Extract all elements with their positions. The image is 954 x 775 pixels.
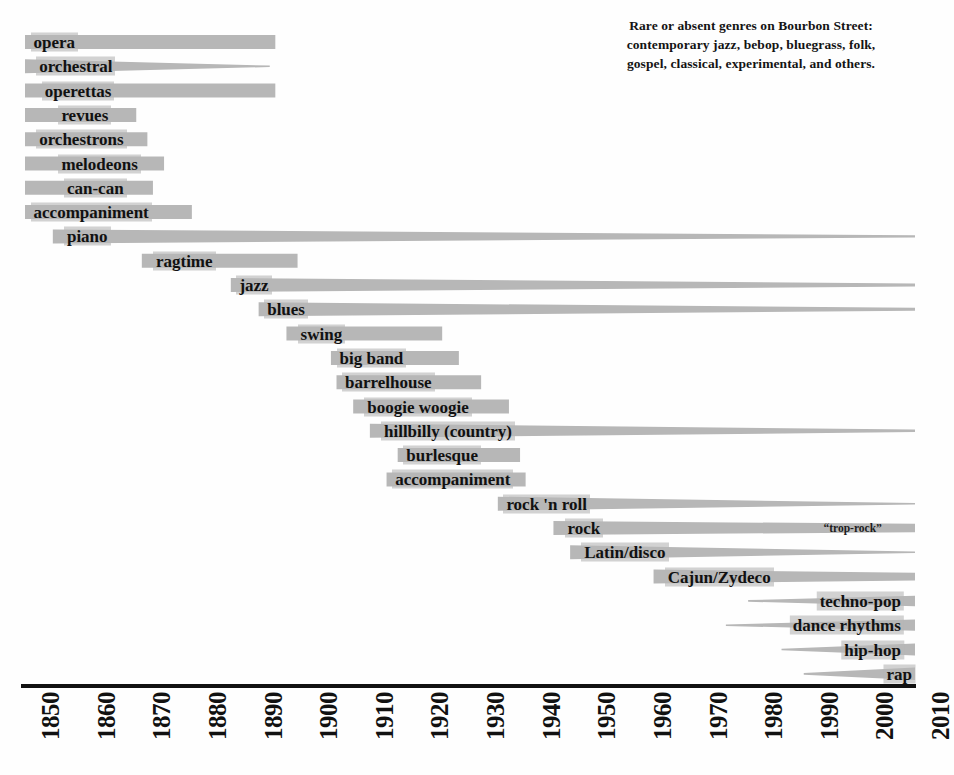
genre-label: barrelhouse [342,373,435,392]
genre-label: blues [264,300,308,319]
x-axis-tick-1870: 1870 [148,692,176,740]
genre-label: piano [64,227,111,246]
x-axis-tick-1930: 1930 [482,692,510,740]
x-axis-tick-1960: 1960 [649,692,677,740]
x-axis-tick-1880: 1880 [204,692,232,740]
x-axis-tick-1990: 1990 [816,692,844,740]
genre-label: Latin/disco [581,543,668,562]
genre-label: dance rhythms [790,616,904,635]
genre-label: burlesque [403,446,481,465]
genre-label: rock [565,519,604,538]
x-axis-tick-2000: 2000 [871,692,899,740]
x-axis-tick-1950: 1950 [593,692,621,740]
x-axis-tick-1850: 1850 [37,692,65,740]
genre-bar [259,302,915,316]
genre-bar [231,278,915,292]
genre-label: revues [58,105,111,124]
x-axis-tick-1940: 1940 [538,692,566,740]
genre-label: accompaniment [392,470,513,489]
genre-label: Cajun/Zydeco [665,567,774,586]
genre-label: boogie woogie [364,397,472,416]
genre-label: big band [337,348,407,367]
x-axis-line [21,684,916,688]
genre-label: rap [884,664,916,683]
genre-bar [53,229,915,243]
genre-label: rock 'n roll [503,494,590,513]
genre-label: ragtime [153,251,216,270]
genre-label: techno-pop [817,591,904,610]
genre-label: melodeons [58,154,141,173]
x-axis-tick-2010: 2010 [927,692,954,740]
genre-label: orchestral [36,57,115,76]
genre-label: hip-hop [841,640,904,659]
x-axis-tick-1980: 1980 [760,692,788,740]
x-axis-tick-1970: 1970 [705,692,733,740]
genre-label: can-can [64,178,127,197]
genre-label: hillbilly (country) [381,421,515,440]
genre-label: swing [298,324,346,343]
x-axis-tick-1900: 1900 [315,692,343,740]
genre-label: jazz [236,276,271,295]
genre-label: opera [31,33,79,52]
x-axis-tick-1920: 1920 [426,692,454,740]
x-axis-tick-1860: 1860 [93,692,121,740]
x-axis-tick-1890: 1890 [260,692,288,740]
genre-label: accompaniment [31,203,152,222]
genre-label: operettas [42,81,115,100]
x-axis-tick-1910: 1910 [371,692,399,740]
trop-rock-annotation: “trop-rock” [820,519,884,538]
genre-label: orchestrons [36,130,126,149]
